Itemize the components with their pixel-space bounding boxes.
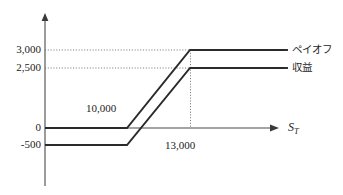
y-tick-label-2500: 2,500	[0, 62, 41, 73]
x-axis-variable-label: ST	[288, 121, 299, 136]
y-tick-label-3000: 3,000	[0, 44, 41, 55]
payoff-diagram-figure: 3,000 2,500 0 -500 10,000 13,000 ST ペイオフ…	[0, 0, 343, 195]
x-axis-variable-subscript: T	[294, 126, 299, 136]
y-tick-label-0: 0	[0, 122, 41, 133]
x-axis-arrow-icon	[270, 124, 279, 131]
y-axis-arrow-icon	[42, 13, 49, 21]
legend-label-revenue: 収益	[292, 62, 312, 73]
chart-canvas	[0, 0, 343, 195]
legend-label-payoff: ペイオフ	[292, 44, 332, 55]
y-tick-label-minus500: -500	[0, 139, 41, 150]
series-line-payoff	[45, 50, 285, 128]
x-tick-label-13000: 13,000	[165, 140, 195, 151]
x-annotation-10000: 10,000	[86, 103, 116, 114]
